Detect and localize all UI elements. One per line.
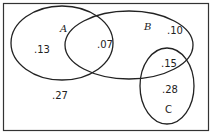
region-a-only: .13 bbox=[34, 44, 50, 55]
set-a-label: A bbox=[59, 23, 67, 34]
region-c-only: .28 bbox=[162, 84, 178, 95]
set-b-label: B bbox=[143, 21, 151, 32]
region-b-only: .10 bbox=[167, 25, 183, 36]
venn-diagram: A B C .13 .07 .10 .15 .28 .27 bbox=[0, 0, 212, 134]
region-b-and-c: .15 bbox=[161, 58, 177, 69]
region-outside: .27 bbox=[52, 90, 68, 101]
region-a-and-b: .07 bbox=[97, 39, 113, 50]
set-c-label: C bbox=[165, 104, 172, 115]
